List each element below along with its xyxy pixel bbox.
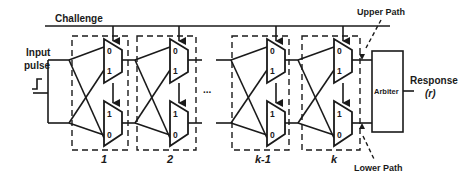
challenge-label: Challenge [55,13,103,24]
step-signal-icon [32,79,42,89]
input-pulse: Input pulse [24,47,69,123]
svg-text:0: 0 [270,130,275,140]
stage-label: k-1 [255,153,271,165]
upper-path-label: Upper Path [357,7,405,17]
stage-2: 0 1 1 0 2 [135,36,202,165]
stage-label: k [331,153,338,165]
svg-text:1: 1 [270,109,275,119]
stage-label: 2 [166,153,173,165]
svg-text:1: 1 [337,66,342,76]
response-output: Response (r) [410,75,458,99]
svg-text:0: 0 [173,46,178,56]
svg-text:0: 0 [173,130,178,140]
svg-text:1: 1 [107,66,112,76]
arbiter-block: Arbiter [372,51,414,132]
stage-1: 0 1 1 0 1 [69,36,135,165]
arbiter-puf-diagram: Challenge Input pulse 0 1 1 0 1 [0,0,475,180]
response-label: Response [410,75,458,86]
ellipsis: ... [203,84,212,95]
input-label-line2: pulse [24,60,51,71]
svg-text:0: 0 [107,46,112,56]
svg-text:0: 0 [337,130,342,140]
svg-text:0: 0 [337,46,342,56]
svg-text:0: 0 [107,130,112,140]
svg-text:1: 1 [270,66,275,76]
lower-path-label: Lower Path [354,163,403,173]
challenge-bus: Challenge [45,13,390,41]
input-label-line1: Input [26,47,51,58]
arbiter-label: Arbiter [374,87,399,96]
svg-text:1: 1 [337,109,342,119]
svg-text:1: 1 [173,109,178,119]
svg-text:1: 1 [107,109,112,119]
stage-label: 1 [101,153,107,165]
stage-k-minus-1: 0 1 1 0 k-1 [216,36,298,165]
svg-text:1: 1 [173,66,178,76]
svg-text:0: 0 [270,46,275,56]
response-symbol: (r) [425,88,436,99]
